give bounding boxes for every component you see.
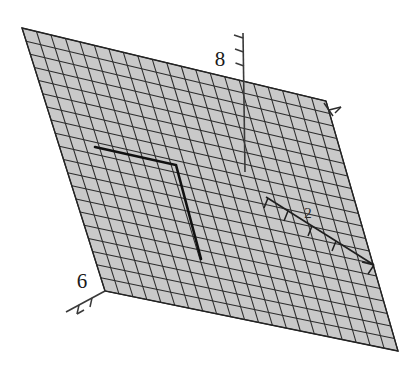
vertical-axis-label: 8	[215, 47, 226, 71]
left-axis-label: 6	[77, 269, 88, 293]
vertical-axis-tick-2	[235, 49, 244, 52]
surface-plot-svg: 8 6 2	[0, 0, 415, 365]
mesh-surface	[22, 28, 398, 351]
diagonal-axis-label: 2	[304, 205, 312, 221]
vertical-axis-tick-1	[234, 35, 243, 38]
figure-root: 8 6 2	[0, 0, 415, 365]
left-axis: 6	[66, 269, 105, 314]
surface-fill	[22, 28, 398, 351]
left-axis-line	[66, 291, 105, 312]
